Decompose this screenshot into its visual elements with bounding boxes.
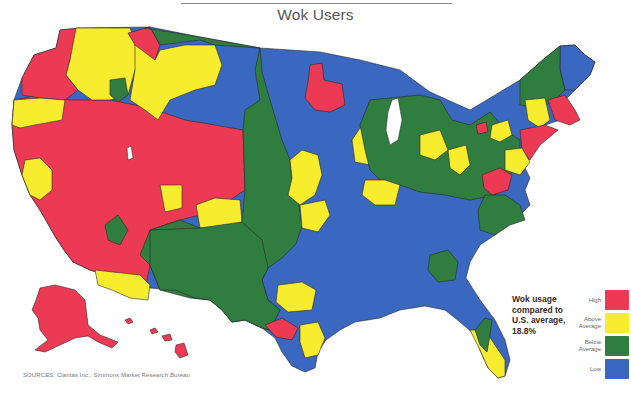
legend-item-below-average: BelowAverage [565,336,631,358]
legend-item-high: High [565,290,631,312]
legend-label-high: High [565,297,601,304]
sources-prefix: SOURCES: [23,372,55,378]
legend-swatch-high [605,290,629,310]
legend-swatch-above-average [605,313,629,333]
legend-label-low: Low [565,366,601,373]
legend-label-above-average: AboveAverage [565,316,601,330]
sources-italic: Bureau [170,372,190,378]
sources-text: Claritas Inc.; Simmons Market Research [57,372,168,378]
region-hawaii-high-2 [150,328,158,334]
region-hawaii-high-4 [175,343,188,358]
region-alaska-high [32,285,118,352]
sources-credit: SOURCES: Claritas Inc.; Simmons Market R… [23,372,190,378]
region-maine-low [560,45,595,90]
legend-swatch-low [605,359,629,379]
legend-item-above-average: AboveAverage [565,313,631,335]
region-inland-nw-above [66,28,140,100]
legend-label-below-average: BelowAverage [565,339,601,353]
us-choropleth-map [0,0,631,400]
region-hawaii-high-3 [162,334,172,341]
legend-item-low: Low [565,359,631,381]
legend-swatch-below-average [605,336,629,356]
region-hawaii-high [125,318,133,324]
